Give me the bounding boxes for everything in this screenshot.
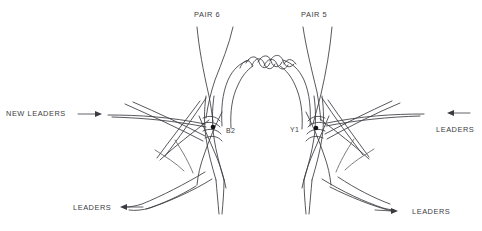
- bottom-right-leader-strands: [322, 177, 395, 211]
- pair6-strands: [197, 27, 233, 122]
- leaders-right-arrow: [447, 110, 470, 116]
- label-pair-6: PAIR 6: [194, 11, 220, 18]
- label-node-y1: Y1: [290, 126, 299, 133]
- left-leader-fan: [108, 98, 209, 173]
- twisted-arch: [222, 55, 311, 129]
- node-dot-y1: [314, 126, 319, 131]
- knot-y1: [302, 96, 331, 214]
- label-node-b2: B2: [226, 127, 235, 134]
- node-dot-b2: [211, 125, 216, 130]
- pair5-strands: [303, 27, 332, 124]
- diagram-canvas: [0, 0, 482, 231]
- right-leader-fan: [320, 98, 424, 172]
- label-pair-5: PAIR 5: [301, 11, 327, 18]
- label-leaders-right: LEADERS: [436, 126, 474, 133]
- bottom-left-leader-strands: [126, 172, 212, 210]
- label-leaders-bottom-left: LEADERS: [73, 204, 111, 211]
- new-leaders-arrow: [78, 111, 102, 117]
- label-new-leaders: NEW LEADERS: [6, 110, 66, 117]
- wire-splice-diagram: PAIR 6 PAIR 5 NEW LEADERS LEADERS LEADER…: [0, 0, 482, 231]
- label-leaders-bottom-right: LEADERS: [412, 208, 450, 215]
